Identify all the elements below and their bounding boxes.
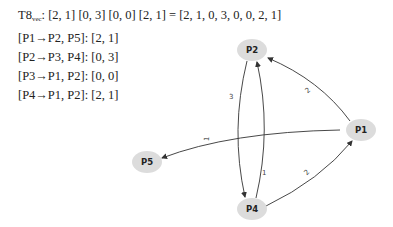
node-label-p5: P5	[141, 157, 153, 167]
edge-label-p2-p4: 3	[229, 93, 233, 101]
edge-label-p1-p5: 1	[203, 136, 211, 141]
node-p1: P1	[346, 119, 376, 141]
edge-p4-p2	[256, 62, 264, 198]
graph-edges	[162, 58, 352, 206]
node-label-p4: P4	[246, 204, 258, 214]
edge-label-p1-p2: 2	[304, 86, 313, 95]
node-label-p2: P2	[246, 45, 258, 55]
edge-p1-p5	[162, 130, 340, 158]
node-p2: P2	[237, 39, 267, 61]
edge-p2-p4	[238, 61, 247, 197]
node-label-p1: P1	[355, 125, 367, 135]
node-p4: P4	[237, 198, 267, 220]
edge-label-p4-p2: 1	[262, 169, 266, 177]
node-p5: P5	[132, 151, 162, 173]
graph-diagram: 3 2 1 1 2 P2 P1 P5 P4	[0, 0, 393, 227]
edge-label-p4-p1: 2	[302, 168, 311, 177]
